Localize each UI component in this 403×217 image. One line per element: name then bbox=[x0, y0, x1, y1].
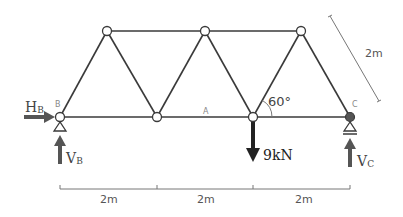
load-arrow-icon bbox=[246, 122, 260, 162]
joint bbox=[249, 113, 258, 122]
reaction-label-vc: VC bbox=[356, 153, 374, 169]
truss-members bbox=[60, 31, 350, 117]
joint-b bbox=[56, 113, 65, 122]
node-label-a: A bbox=[203, 107, 209, 116]
pin-support-icon bbox=[54, 122, 66, 131]
joint-c bbox=[346, 113, 355, 122]
diagonal-member bbox=[60, 31, 107, 117]
joint bbox=[153, 113, 162, 122]
joint bbox=[103, 27, 112, 36]
diagonal-member bbox=[157, 31, 205, 117]
angle-label: 60° bbox=[268, 94, 291, 109]
span-label-1: 2m bbox=[100, 193, 118, 206]
member-length-label: 2m bbox=[365, 47, 383, 60]
vertical-reaction-arrow-c-icon bbox=[344, 138, 356, 167]
diagonal-member bbox=[205, 31, 253, 117]
span-dimension bbox=[60, 185, 350, 189]
load-label: 9kN bbox=[263, 147, 293, 163]
reaction-label-vb: VB bbox=[65, 150, 83, 166]
node-label-b: B bbox=[55, 100, 61, 109]
joint bbox=[201, 27, 210, 36]
reaction-label-hb: HB bbox=[25, 99, 44, 115]
truss-diagram: 60° 9kN B A C HB VB bbox=[0, 0, 403, 217]
diagonal-member bbox=[107, 31, 157, 117]
diagonal-member bbox=[301, 31, 350, 117]
joint bbox=[297, 27, 306, 36]
node-label-c: C bbox=[352, 100, 358, 109]
roller-support-icon bbox=[343, 122, 357, 134]
span-label-2: 2m bbox=[197, 193, 215, 206]
vertical-reaction-arrow-b-icon bbox=[54, 135, 66, 164]
span-label-3: 2m bbox=[295, 193, 313, 206]
